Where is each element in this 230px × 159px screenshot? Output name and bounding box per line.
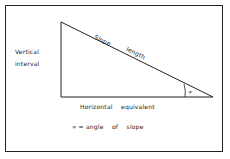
angle-symbol: ∝	[188, 89, 193, 95]
vertical-interval-label-2: interval	[15, 61, 39, 67]
vertical-interval-label-1: Vertical	[15, 49, 39, 55]
slope-triangle	[0, 0, 230, 159]
horizontal-equivalent-label: Horizontal equivalent	[80, 104, 155, 110]
angle-arc	[184, 84, 185, 97]
triangle-outline	[61, 22, 213, 97]
angle-legend: ∝ = angle of slope	[72, 124, 144, 130]
